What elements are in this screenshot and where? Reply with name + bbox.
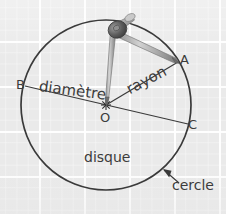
label-cercle: cercle [172,178,214,192]
point-label-c: C [188,118,197,131]
geometry-figure: diamètre rayon disque cercle A B C O [0,0,226,214]
point-label-b: B [16,78,25,91]
label-disque: disque [84,150,130,164]
point-label-o: O [100,111,110,124]
point-label-a: A [180,53,189,66]
compass-needle-leg [106,31,117,106]
